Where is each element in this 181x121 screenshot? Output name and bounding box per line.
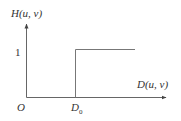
origin-text: O bbox=[17, 101, 25, 113]
y-axis-label: H(u, v) bbox=[11, 8, 42, 19]
y-axis-label-text: H(u, v) bbox=[11, 7, 42, 19]
x-axis-label-text: D(u, v) bbox=[137, 78, 168, 90]
cutoff-label: D0 bbox=[71, 102, 82, 116]
cutoff-sub: 0 bbox=[79, 108, 83, 116]
y-tick-label: 1 bbox=[15, 47, 21, 58]
origin-label: O bbox=[17, 102, 25, 113]
x-axis-label: D(u, v) bbox=[137, 79, 168, 90]
cutoff-main: D bbox=[71, 101, 79, 113]
y-tick-one: 1 bbox=[15, 46, 21, 58]
